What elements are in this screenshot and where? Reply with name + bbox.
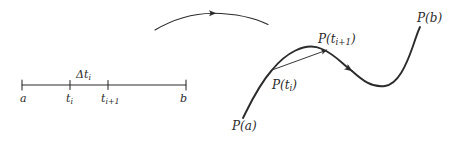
curve-segment-start	[243, 47, 352, 118]
delta-t-label: Δti	[76, 69, 91, 82]
curve-segment-end	[352, 27, 420, 86]
point-label-p-t-i-plus-1-prefix: P(	[318, 32, 331, 46]
point-label-p-t-i-plus-1-suffix: )	[351, 32, 356, 46]
point-label-p-t-i-prefix: P(	[272, 78, 285, 92]
axis-label-t-i-plus-1-subscript: i+1	[105, 97, 119, 106]
axis-label-t-i-plus-1: ti+1	[101, 93, 120, 106]
interval-axis-group	[22, 80, 186, 90]
delta-t-subscript: i	[88, 73, 91, 82]
point-label-p-b: P(b)	[417, 12, 442, 24]
figure-canvas	[0, 0, 461, 143]
math-figure: a ti ti+1 b Δti P(a) P(b) P(ti) P(ti+1)	[0, 0, 461, 143]
orientation-arc-group	[155, 13, 268, 30]
orientation-arc-left	[155, 13, 213, 30]
point-label-p-a: P(a)	[232, 120, 257, 132]
axis-label-b: b	[180, 93, 187, 104]
orientation-arc-right	[213, 13, 268, 24]
point-label-p-t-i-plus-1: P(ti+1)	[318, 33, 356, 47]
axis-label-t-i: ti	[66, 93, 73, 106]
axis-label-a: a	[20, 93, 27, 104]
point-label-p-t-i: P(ti)	[272, 79, 297, 93]
point-label-p-t-i-suffix: )	[292, 78, 297, 92]
point-label-p-t-i-plus-1-subscript: i+1	[336, 37, 351, 47]
delta-t-symbol: Δt	[76, 68, 88, 81]
axis-label-t-i-subscript: i	[70, 97, 73, 106]
